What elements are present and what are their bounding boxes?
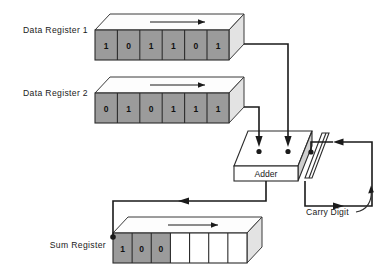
sum-bit-2: 0 [158, 244, 163, 254]
wire-register1-to-adder [244, 44, 288, 139]
register2-bit-5: 1 [216, 104, 221, 114]
register1-bit-0: 1 [104, 41, 109, 51]
data-register-2-label: Data Register 2 [23, 88, 88, 98]
data-register-1-label: Data Register 1 [23, 25, 88, 35]
sum-bit-0: 1 [120, 244, 125, 254]
sum-register-input-node [110, 234, 116, 240]
sum-bit-1: 0 [139, 244, 144, 254]
sum-register-label: Sum Register [50, 240, 106, 250]
adder-label: Adder [255, 169, 278, 179]
register1-bit-5: 1 [216, 41, 221, 51]
adder-input-node-middle [285, 149, 290, 154]
sum-cells [113, 233, 247, 263]
wire-carry-loop-arrowhead [333, 138, 344, 145]
carry-digit-leader-arrowhead [368, 186, 374, 194]
register1-bit-3: 1 [171, 41, 176, 51]
register2-bit-0: 0 [104, 104, 109, 114]
adder-input-node-left [256, 149, 261, 154]
register2-bit-1: 1 [126, 104, 131, 114]
carry-digit-label: Carry Digit [306, 207, 349, 217]
register1-bit-2: 1 [149, 41, 154, 51]
register1-bit-4: 0 [193, 41, 198, 51]
register2-bit-3: 1 [171, 104, 176, 114]
data-register-2: 0 1 0 1 1 1 Data Register 2 [23, 77, 244, 123]
register1-bit-1: 0 [126, 41, 131, 51]
data-register-1: 1 0 1 1 0 1 Data Register 1 [23, 14, 244, 60]
register2-cells [95, 93, 229, 123]
sum-register: 1 0 0 Sum Register [50, 217, 262, 263]
register2-bit-4: 1 [193, 104, 198, 114]
register2-bit-2: 0 [149, 104, 154, 114]
carry-digit-annotation: Carry Digit [306, 186, 374, 218]
wire-adder-to-sum-arrowhead [178, 197, 189, 204]
diagram-canvas: 1 0 1 1 0 1 Data Register 1 [0, 0, 391, 269]
adder-input-node-right [308, 149, 313, 154]
adder-register-diagram: 1 0 1 1 0 1 Data Register 1 [0, 0, 391, 269]
register1-cells [95, 30, 229, 60]
adder-unit: Adder [234, 131, 312, 181]
carry-digit-leader-line [356, 191, 371, 212]
